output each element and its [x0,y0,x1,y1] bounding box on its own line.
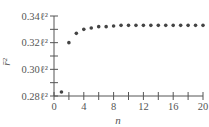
x-axis-title: n [115,114,121,126]
data-point [134,24,138,28]
x-tick-label: 20 [198,101,209,112]
x-tick-label: 8 [111,101,116,112]
data-point [97,25,101,29]
y-axis: 0.28ℓ²0.30ℓ²0.32ℓ²0.34ℓ² [21,11,58,102]
data-point [104,25,108,29]
data-point [171,24,175,28]
data-point [164,24,168,28]
y-axis-title: r̄² [0,58,12,66]
data-point [179,24,183,28]
data-point [67,41,71,45]
data-point [60,90,64,94]
data-point [142,24,146,28]
x-tick-label: 4 [81,101,87,112]
data-points [60,24,205,94]
data-point [201,24,205,28]
x-tick-label: 12 [138,101,149,112]
data-point [149,24,153,28]
y-tick-label: 0.34ℓ² [21,11,48,22]
data-point [186,24,190,28]
data-point [127,24,131,28]
data-point [75,32,79,36]
data-point [112,24,116,28]
x-axis: 048121620 [51,92,208,112]
svg-text:r̄²: r̄² [0,58,12,66]
y-tick-label: 0.30ℓ² [21,64,48,75]
data-point [194,24,198,28]
x-tick-label: 16 [168,101,179,112]
y-tick-label: 0.28ℓ² [21,91,48,102]
data-point [89,26,93,30]
scatter-chart: 0.28ℓ²0.30ℓ²0.32ℓ²0.34ℓ² 048121620 n r̄² [0,0,209,127]
data-point [119,24,123,28]
y-tick-label: 0.32ℓ² [21,37,48,48]
x-tick-label: 0 [51,101,56,112]
data-point [82,28,86,32]
data-point [157,24,161,28]
